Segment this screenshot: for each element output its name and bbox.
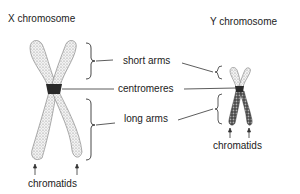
x-long-arm-left xyxy=(32,92,56,160)
y-short-arm-left xyxy=(230,67,241,87)
x-chromatid-arrows xyxy=(34,164,79,175)
y-centromere xyxy=(235,86,244,92)
long-arms-leader-x xyxy=(96,123,115,125)
x-chromosome-title: X chromosome xyxy=(8,13,75,24)
x-short-arm-right xyxy=(52,41,76,86)
x-long-arms-brace xyxy=(86,99,95,160)
y-chromosome-title: Y chromosome xyxy=(210,16,277,27)
chromosome-diagram xyxy=(0,0,300,194)
y-short-arm-right xyxy=(239,68,250,87)
centromeres-leader-y xyxy=(184,88,236,89)
x-short-arms-brace xyxy=(86,43,95,79)
long-arms-label: long arms xyxy=(124,113,168,124)
x-chromosome xyxy=(30,41,82,160)
short-arms-leader-y xyxy=(182,63,213,72)
x-short-arm-left xyxy=(30,41,56,86)
y-chromatids-label: chromatids xyxy=(213,140,262,151)
x-centromere xyxy=(46,84,62,94)
x-long-arm-right xyxy=(53,92,82,157)
short-arms-label: short arms xyxy=(123,55,170,66)
x-chromatids-label: chromatids xyxy=(28,178,77,189)
y-long-arms-brace xyxy=(215,94,222,124)
y-chromosome xyxy=(229,67,252,125)
centromeres-label: centromeres xyxy=(118,83,174,94)
y-long-arm-right xyxy=(240,91,252,125)
y-long-arm-left xyxy=(229,91,241,125)
long-arms-leader-y xyxy=(178,109,213,120)
short-arms-leader-x xyxy=(96,60,113,61)
y-chromatid-arrows xyxy=(229,128,251,138)
y-short-arms-brace xyxy=(215,66,222,79)
